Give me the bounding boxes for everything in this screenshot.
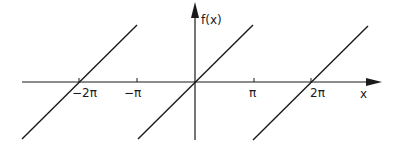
sawtooth-segment-3	[253, 26, 368, 140]
sawtooth-chart: f(x) x −2π −π π 2π	[0, 0, 401, 149]
x-axis-label: x	[360, 87, 367, 101]
tick-label-neg-pi: −π	[124, 86, 141, 100]
y-axis-label: f(x)	[201, 13, 222, 27]
y-axis-arrow-icon	[191, 2, 199, 18]
tick-label-pi: π	[249, 86, 256, 100]
x-axis-arrow-icon	[366, 78, 382, 86]
tick-label-neg-2pi: −2π	[72, 86, 97, 100]
tick-label-2pi: 2π	[310, 86, 325, 100]
